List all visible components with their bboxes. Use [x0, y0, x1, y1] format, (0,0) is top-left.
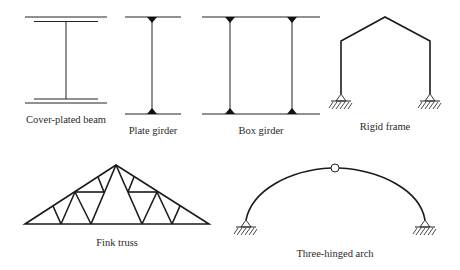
box-girder: Box girder [202, 17, 320, 136]
cover-plated-beam-label: Cover-plated beam [26, 114, 106, 125]
weld-icon [287, 108, 297, 114]
diagram-canvas: Cover-plated beam Plate girder Box girde… [0, 0, 460, 270]
truss-web [128, 177, 134, 192]
box-girder-label: Box girder [238, 125, 284, 136]
truss-chords [25, 165, 209, 224]
arch-right-segment [339, 168, 425, 220]
truss-web [98, 177, 104, 192]
pin-support-icon [329, 94, 352, 109]
three-hinged-arch-label: Three-hinged arch [296, 248, 374, 259]
pin-support-icon [413, 220, 436, 235]
arch-left-segment [246, 168, 331, 220]
truss-web [75, 192, 91, 224]
truss-web [172, 206, 180, 224]
plate-girder-label: Plate girder [129, 125, 178, 136]
truss-web [157, 192, 172, 224]
cover-plated-beam: Cover-plated beam [25, 17, 107, 125]
three-hinged-arch: Three-hinged arch [234, 164, 436, 259]
truss-web [53, 206, 61, 224]
frame-members [341, 17, 430, 94]
weld-icon [147, 17, 157, 23]
crown-hinge-icon [331, 164, 339, 172]
weld-icon [147, 108, 157, 114]
fink-truss-label: Fink truss [96, 237, 138, 248]
plate-girder: Plate girder [125, 17, 181, 136]
weld-icon [287, 17, 297, 23]
fink-truss: Fink truss [25, 165, 209, 248]
truss-web [142, 192, 157, 224]
pin-support-icon [418, 94, 441, 109]
weld-icon [225, 17, 235, 23]
weld-icon [225, 108, 235, 114]
pin-support-icon [234, 220, 257, 235]
rigid-frame: Rigid frame [329, 17, 441, 132]
rigid-frame-label: Rigid frame [360, 121, 411, 132]
